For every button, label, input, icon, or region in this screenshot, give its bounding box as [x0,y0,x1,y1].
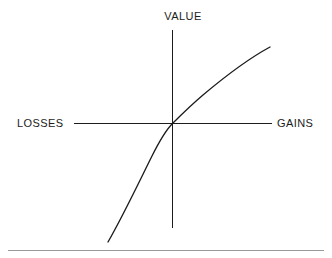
value-function-curve [108,47,270,242]
axis-label-value: VALUE [150,11,216,22]
value-function-chart [0,0,332,258]
prospect-theory-figure: VALUE LOSSES GAINS [0,0,332,258]
axis-label-gains: GAINS [277,118,313,129]
axis-label-losses: LOSSES [17,118,63,129]
footer-divider [8,250,324,251]
